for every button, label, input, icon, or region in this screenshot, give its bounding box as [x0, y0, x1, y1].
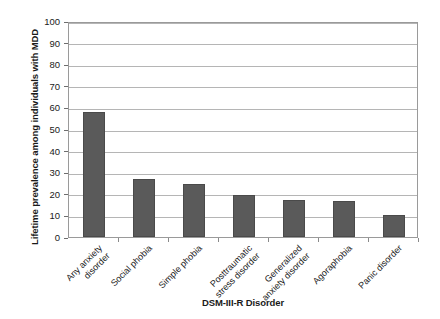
x-tick-mark: [318, 238, 319, 242]
y-tick-label: 90: [20, 39, 60, 49]
y-tick-mark: [64, 130, 68, 131]
y-tick-mark: [64, 43, 68, 44]
gridline: [69, 66, 417, 67]
y-tick-mark: [64, 173, 68, 174]
bar: [383, 215, 405, 237]
bar: [133, 179, 155, 237]
y-tick-label: 60: [20, 103, 60, 113]
y-tick-label: 50: [20, 125, 60, 135]
gridline: [69, 44, 417, 45]
gridline: [69, 23, 417, 24]
y-tick-mark: [64, 86, 68, 87]
y-tick-mark: [64, 216, 68, 217]
x-tick-mark: [218, 238, 219, 242]
y-tick-mark: [64, 238, 68, 239]
gridline: [69, 174, 417, 175]
y-tick-label: 20: [20, 190, 60, 200]
bar: [283, 200, 305, 237]
bar: [333, 201, 355, 237]
y-tick-label: 10: [20, 211, 60, 221]
y-tick-mark: [64, 194, 68, 195]
bar-chart-figure: Lifetime prevalence among individuals wi…: [0, 0, 440, 319]
y-tick-mark: [64, 151, 68, 152]
x-tick-mark: [118, 238, 119, 242]
y-tick-mark: [64, 108, 68, 109]
y-tick-mark: [64, 22, 68, 23]
gridline: [69, 131, 417, 132]
bar: [233, 195, 255, 237]
bar: [83, 112, 105, 237]
x-tick-mark: [168, 238, 169, 242]
y-tick-label: 30: [20, 168, 60, 178]
x-tick-mark: [418, 238, 419, 242]
y-axis-title: Lifetime prevalence among individuals wi…: [26, 12, 44, 262]
x-tick-mark: [368, 238, 369, 242]
gridline: [69, 152, 417, 153]
y-tick-mark: [64, 65, 68, 66]
y-tick-label: 80: [20, 60, 60, 70]
y-tick-label: 70: [20, 82, 60, 92]
y-tick-label: 0: [20, 233, 60, 243]
gridline: [69, 87, 417, 88]
gridline: [69, 109, 417, 110]
plot-area: [68, 22, 418, 238]
bar: [183, 184, 205, 237]
y-tick-label: 40: [20, 147, 60, 157]
y-tick-label: 100: [20, 17, 60, 27]
x-tick-mark: [268, 238, 269, 242]
